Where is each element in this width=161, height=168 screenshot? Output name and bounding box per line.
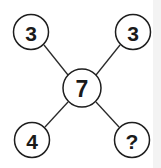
node-top-right-label: 3	[127, 22, 139, 45]
node-center-label: 7	[76, 76, 89, 102]
connector-top-right	[96, 45, 120, 75]
connector-bottom-left	[45, 102, 68, 127]
node-top-left: 3	[14, 15, 49, 50]
node-top-right: 3	[116, 15, 151, 50]
node-bottom-left-label: 4	[26, 130, 38, 153]
connector-top-left	[44, 45, 68, 75]
connector-bottom-right	[96, 102, 119, 127]
node-center: 7	[63, 69, 101, 107]
number-cross-diagram: 3 3 7 4 ?	[0, 0, 161, 168]
node-bottom-right-question-label: ?	[126, 130, 139, 153]
node-top-left-label: 3	[25, 22, 37, 45]
node-bottom-right: ?	[115, 123, 150, 158]
node-bottom-left: 4	[15, 123, 50, 158]
